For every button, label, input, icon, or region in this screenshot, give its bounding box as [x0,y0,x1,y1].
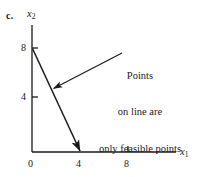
y-tick-label-8: 8 [21,43,26,53]
constraint-line [33,49,81,152]
y-axis-label: x2 [27,9,35,21]
figure-container: c. x2 x1 8 4 0 4 8 Points on line are on… [0,0,197,177]
x-tick-label-0: 0 [28,159,33,169]
annotation-text: Points on line are only feasible points [84,45,196,177]
part-label: c. [6,11,13,21]
y-axis-label-subscript: 2 [32,12,36,21]
annotation-line-1: Points [84,70,196,82]
annotation-line-2: on line are [84,106,196,118]
annotation-line-3: only feasible points [84,143,196,155]
y-tick-label-4: 4 [21,92,26,102]
x-tick-label-4: 4 [76,159,81,169]
